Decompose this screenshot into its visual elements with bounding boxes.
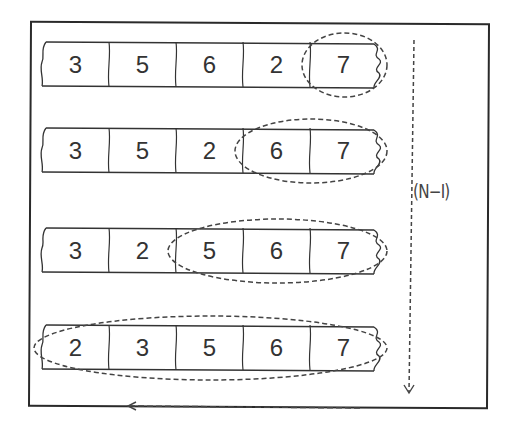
array-cell-value: 6 <box>270 237 283 264</box>
array-cell-value: 6 <box>203 51 216 78</box>
array-cell-value: 6 <box>270 334 283 361</box>
array-row: 23567 <box>34 316 387 380</box>
vertical-down-arrow-icon <box>404 40 414 393</box>
array-cell-value: 2 <box>203 137 216 164</box>
array-row: 35267 <box>41 119 387 183</box>
array-cell-value: 3 <box>69 137 82 164</box>
array-cell-value: 5 <box>136 137 149 164</box>
array-passes: 35627352673256723567 <box>0 0 516 439</box>
array-cell-value: 2 <box>270 51 283 78</box>
array-row: 35627 <box>41 33 387 97</box>
array-cell-value: 3 <box>136 334 149 361</box>
array-cell-value: 7 <box>337 137 350 164</box>
array-cell-value: 5 <box>203 334 216 361</box>
passes-count-label: (N−I) <box>413 180 449 202</box>
array-row: 32567 <box>41 219 387 283</box>
array-cell-value: 3 <box>69 51 82 78</box>
array-cell-value: 7 <box>337 334 350 361</box>
array-cell-value: 5 <box>136 51 149 78</box>
array-cell-value: 2 <box>136 237 149 264</box>
diagram-canvas: 35627352673256723567 (N−I) <box>0 0 516 439</box>
array-cell-value: 5 <box>203 237 216 264</box>
array-cell-value: 2 <box>69 334 82 361</box>
array-cell-value: 7 <box>337 237 350 264</box>
array-cell-value: 3 <box>69 237 82 264</box>
array-cell-value: 7 <box>337 51 350 78</box>
array-cell-value: 6 <box>270 137 283 164</box>
horizontal-left-arrow-icon <box>128 402 360 410</box>
